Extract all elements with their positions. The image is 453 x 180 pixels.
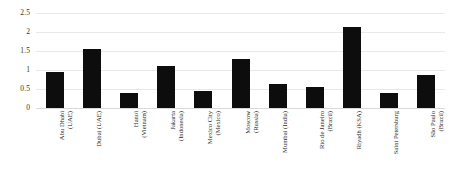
y-axis-tick-label: 0.5 [20,85,30,93]
y-axis-tick-label: 1.5 [20,47,30,55]
y-axis-tick-label: 2 [26,28,30,36]
x-axis-tick-label: São Paulo (Brazil) [429,111,444,179]
bar [380,93,398,108]
x-axis-tick-label: Saint Petersburg [392,111,400,179]
bar [306,87,324,108]
bar-chart-figure: 00.511.522.5 Abu Dhabi (UAE)Dubai (UAE)H… [0,0,453,180]
y-axis-tick-label: 0 [26,104,30,112]
y-axis-tick-label: 2.5 [20,9,30,17]
x-axis: Abu Dhabi (UAE)Dubai (UAE)Hanoi (Vietnam… [36,109,445,180]
bar [120,93,138,108]
x-axis-tick-label: Riyadh (KSA) [355,111,363,179]
x-axis-tick-label: Mexico City (Mexico) [206,111,221,179]
bar [194,91,212,108]
x-axis-tick-label: Moscow (Russia) [244,111,259,179]
bar [343,27,361,108]
x-axis-tick-label: Abu Dhabi (UAE) [58,111,73,179]
bar [157,66,175,108]
bar [269,84,287,108]
x-axis-tick-label: Rio de Janeiro (Brazil) [318,111,333,179]
bars-layer [36,13,445,108]
bar [417,75,435,108]
x-axis-tick-label: Jakarta (Indonesia) [169,111,184,179]
x-axis-tick-label: Dubai (UAE) [95,111,103,179]
y-axis: 00.511.522.5 [0,13,34,108]
x-axis-tick-label: Mumbai (India) [281,111,289,179]
bar [46,72,64,108]
y-axis-tick-label: 1 [26,66,30,74]
bar [83,49,101,108]
x-axis-tick-label: Hanoi (Vietnam) [132,111,147,179]
bar [232,59,250,108]
